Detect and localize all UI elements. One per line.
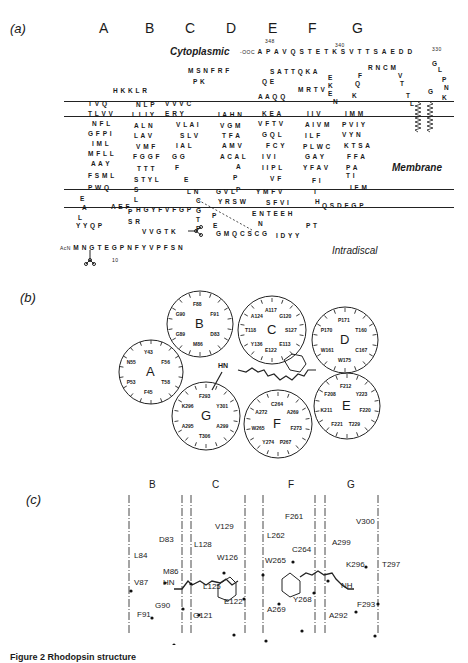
wheel-residue: E113 [279, 341, 290, 347]
panel-c-header-b: B [149, 479, 156, 490]
wheel-residue: Y274 [262, 439, 274, 445]
wheel-residue: P170 [321, 327, 333, 333]
sequence-row: T F A [222, 132, 241, 139]
sequence-row: P T [306, 222, 318, 229]
helix-letter-b: B [145, 20, 154, 36]
helix-letter-c: C [185, 20, 195, 36]
sequence-row: S L V [180, 132, 199, 139]
residue-number-340: 340 [335, 42, 345, 49]
point-label-l262: L262 [267, 531, 285, 540]
sequence-row: A [82, 204, 87, 211]
point-label-m86: M86 [163, 567, 179, 576]
wheel-residue: A117 [265, 307, 277, 313]
sequence-row: F C Y [266, 142, 285, 149]
wheel-residue: A295 [182, 423, 194, 429]
sequence-row: P L W C [303, 143, 331, 150]
point-label-w126: W126 [217, 553, 238, 562]
wheel-residue: T118 [245, 327, 256, 333]
sequence-row: L [438, 66, 442, 73]
sequence-row: P V I Y [342, 121, 366, 128]
sequence-row: F G G F [133, 153, 160, 160]
wheel-residue: F45 [144, 389, 153, 395]
n-terminus-label: AcN [60, 245, 71, 251]
point-label-g121: G121 [193, 611, 213, 620]
sequence-row: T [313, 188, 317, 195]
sequence-row: P K [193, 78, 205, 85]
figure-caption: Figure 2 Rhodopsin structure [10, 652, 136, 662]
point-label-a299: A299 [332, 538, 351, 547]
wheel-residue: Y136 [251, 341, 263, 347]
sequence-row: I F M [350, 184, 367, 191]
sequence-row: Q [355, 80, 361, 87]
panel-c-header-c: C [212, 479, 219, 490]
wheel-residue: Y43 [144, 349, 153, 355]
point-label-w265: W265 [265, 556, 286, 565]
chromophore-label: HN [218, 362, 228, 369]
sequence-row: F [358, 72, 362, 79]
sequence-row: Y M F V [256, 188, 283, 195]
wheel-residue: P171 [338, 317, 350, 323]
wheel-residue: Y223 [356, 391, 368, 397]
sequence-row: I V I [262, 153, 276, 160]
panel-c-header-g: G [347, 479, 355, 490]
sequence-row: K [352, 92, 357, 99]
point-label-f293: F293 [357, 600, 375, 609]
sequence-row: V L A I [176, 121, 199, 128]
residue-number-348: 348 [265, 38, 275, 45]
disulfide-bond [196, 198, 256, 234]
point-label-l128: L128 [194, 540, 212, 549]
sequence-row: R N C M [368, 64, 396, 71]
sequence-row: G [428, 88, 434, 95]
point-label-f261: F261 [285, 512, 303, 521]
beta-ionone-ring [284, 354, 306, 372]
sequence-row: I M L [92, 140, 109, 147]
point-label-k296: K296 [346, 560, 365, 569]
sequence-row: Y Y Q P [76, 222, 103, 229]
sequence-row: E N T E E H [252, 210, 293, 217]
sequence-row: F F A [347, 153, 366, 160]
wheel-residue: F91 [210, 311, 219, 317]
wheel-letter-a: A [146, 364, 155, 379]
wheel-residue: T306 [199, 433, 210, 439]
wheel-residue: F208 [324, 391, 335, 397]
cytoplasmic-label: Cytoplasmic [170, 46, 229, 57]
sequence-row: Q E [262, 78, 275, 85]
sequence-row: K E A [262, 110, 282, 117]
wheel-residue: P53 [127, 379, 136, 385]
sequence-row: A L N [134, 122, 153, 129]
wheel-letter-e: E [342, 398, 351, 413]
panel-a-label: (a) [10, 21, 26, 36]
sequence-row: V [398, 72, 403, 79]
wheel-residue: A299 [216, 423, 228, 429]
helix-letter-a: A [99, 20, 108, 36]
sequence-row: P A [346, 164, 358, 171]
point-label-c264: C264 [292, 545, 311, 554]
wheel-residue: K211 [321, 407, 333, 413]
sequence-row: A M V [222, 142, 242, 149]
wheel-residue: N55 [127, 359, 136, 365]
wheel-residue: T58 [161, 379, 170, 385]
sequence-row: T V Q [88, 100, 107, 107]
sequence-row: E [80, 195, 85, 202]
intradiscal-label: Intradiscal [332, 245, 378, 256]
wheel-residue: F273 [290, 425, 301, 431]
n-terminus: AcN MNGTEGPNFYVPFSN [60, 244, 186, 252]
membrane-boundary-top-2 [64, 116, 454, 117]
membrane-label: Membrane [392, 162, 442, 173]
wheel-residue: F221 [331, 421, 342, 427]
residue-number-330: 330 [432, 46, 442, 53]
wheel-residue: C264 [271, 401, 283, 407]
point-label-v87: V87 [134, 578, 148, 587]
wheel-residue: S127 [285, 327, 297, 333]
schiff-base-right: NH [341, 581, 353, 590]
wheel-residue: F88 [193, 301, 202, 307]
sequence-row: A C A L [220, 153, 246, 160]
sequence-row: I A L [176, 142, 192, 149]
wheel-residue: C167 [355, 347, 367, 353]
sequence-row: S [134, 186, 139, 193]
sequence-row: Q S D F G P [322, 202, 364, 209]
point-label-g90: G90 [155, 601, 170, 610]
wheel-residue: T160 [355, 327, 366, 333]
wheel-letter-b: B [195, 316, 204, 331]
sequence-row: V G M [220, 122, 241, 129]
